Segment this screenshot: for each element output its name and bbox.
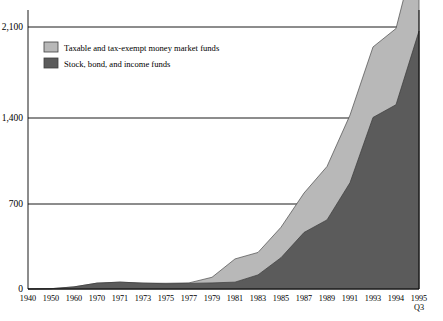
xtick-label-1977: 1977 <box>181 294 197 303</box>
xtick-label-1991: 1991 <box>342 294 358 303</box>
legend-swatch-stock-bond-income <box>44 58 58 68</box>
xtick-label-1981: 1981 <box>227 294 243 303</box>
chart-legend: Taxable and tax-exempt money market fund… <box>44 42 220 69</box>
legend-label-stock-bond-income: Stock, bond, and income funds <box>64 59 171 69</box>
legend-swatch-money-market <box>44 42 58 52</box>
y-axis-tick-labels: 2,100 1,400 700 0 <box>2 22 24 294</box>
xtick-label-1985: 1985 <box>273 294 289 303</box>
ytick-label-1400: 1,400 <box>2 113 24 123</box>
xtick-label-1940: 1940 <box>20 294 36 303</box>
xtick-label-1973: 1973 <box>135 294 151 303</box>
xtick-label-1971: 1971 <box>112 294 128 303</box>
ytick-label-0: 0 <box>18 284 23 294</box>
xtick-label-1960: 1960 <box>66 294 82 303</box>
stacked-area-chart: 2,100 1,400 700 0 1940195019601970197119… <box>0 0 443 321</box>
chart-container: 2,100 1,400 700 0 1940195019601970197119… <box>0 0 443 321</box>
xtick-label-1970: 1970 <box>89 294 105 303</box>
xtick-label-1989: 1989 <box>319 294 335 303</box>
xtick-sublabel-Q3: Q3 <box>414 303 424 312</box>
xtick-label-1983: 1983 <box>250 294 266 303</box>
legend-label-money-market: Taxable and tax-exempt money market fund… <box>64 43 220 53</box>
xtick-label-1993: 1993 <box>365 294 381 303</box>
xtick-label-1994: 1994 <box>388 294 404 303</box>
ytick-label-2100: 2,100 <box>2 22 24 32</box>
xtick-label-1995-Q3: 1995 <box>411 294 427 303</box>
xtick-label-1979: 1979 <box>204 294 220 303</box>
xtick-label-1975: 1975 <box>158 294 174 303</box>
ytick-label-700: 700 <box>9 199 24 209</box>
area-stock-bond-income-funds <box>28 31 419 289</box>
xtick-label-1950: 1950 <box>43 294 59 303</box>
xtick-label-1987: 1987 <box>296 294 312 303</box>
x-axis-tick-labels: 1940195019601970197119731975197719791981… <box>20 294 427 312</box>
